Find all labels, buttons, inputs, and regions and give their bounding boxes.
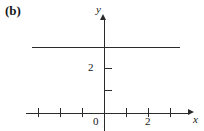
y-tick-label-2: 2 — [88, 62, 94, 73]
y-tick-1 — [104, 90, 112, 91]
x-tick-label-2: 2 — [145, 116, 151, 127]
panel-label: (b) — [5, 4, 21, 17]
x-tick-3 — [170, 108, 171, 117]
origin-tick-label: 0 — [93, 116, 99, 127]
x-tick-1 — [126, 108, 127, 117]
x-axis-line — [26, 113, 190, 114]
x-tick-minus1 — [82, 108, 83, 117]
y-axis-line — [104, 20, 105, 131]
constant-function-line — [32, 47, 180, 48]
x-tick-minus2 — [60, 108, 61, 117]
y-axis-label: y — [96, 4, 101, 15]
y-tick-2 — [104, 68, 112, 69]
x-tick-minus3 — [38, 108, 39, 117]
y-axis-arrow-icon — [100, 14, 106, 20]
x-axis-label: x — [193, 114, 198, 125]
figure-panel: (b) x y 0 2 2 — [0, 0, 204, 131]
